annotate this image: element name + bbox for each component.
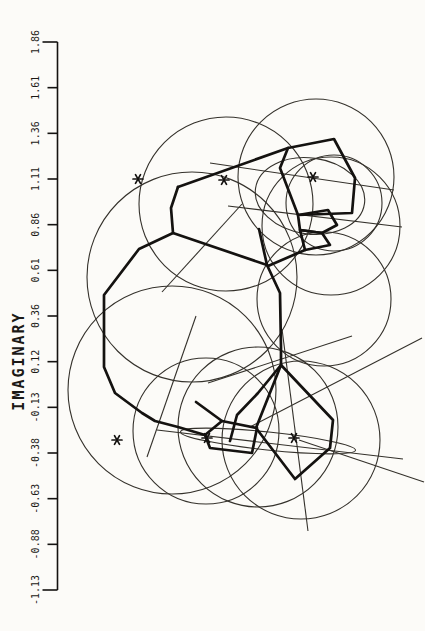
axis-tick-label: -0.38 [30, 438, 41, 468]
axis-tick-label: -1.13 [30, 575, 41, 605]
axis-tick-label: -0.13 [30, 392, 41, 422]
plot-background [0, 0, 425, 631]
axis-tick-label: -0.63 [30, 484, 41, 514]
axis-title-imaginary: IMAGINARY [10, 311, 28, 410]
scanned-figure-page: 1.861.611.361.110.860.610.360.12-0.13-0.… [0, 0, 425, 631]
axis-tick-label: 0.86 [30, 213, 41, 237]
axis-tick-label: -0.88 [30, 529, 41, 559]
axis-tick-label: 1.36 [30, 121, 41, 145]
axis-tick-label: 0.12 [30, 350, 41, 374]
axis-tick-label: 1.11 [30, 167, 41, 191]
axis-tick-label: 0.36 [30, 304, 41, 328]
complex-plane-figure: 1.861.611.361.110.860.610.360.12-0.13-0.… [0, 0, 425, 631]
axis-tick-label: 0.61 [30, 258, 41, 282]
axis-tick-label: 1.86 [30, 30, 41, 54]
plot-svg: 1.861.611.361.110.860.610.360.12-0.13-0.… [0, 0, 425, 631]
axis-tick-label: 1.61 [30, 76, 41, 100]
